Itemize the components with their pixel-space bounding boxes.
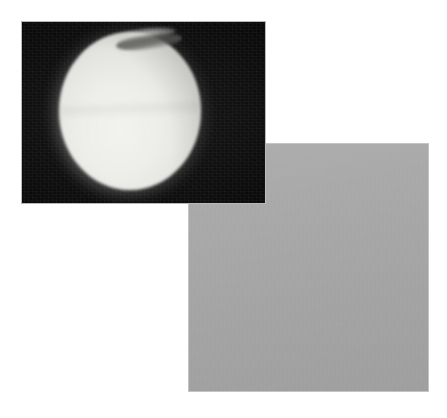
full-disk-image bbox=[22, 22, 265, 203]
panel-full-disk: Full illuminated disk of a hazy moon aga… bbox=[21, 21, 266, 204]
limb-darkening bbox=[59, 32, 201, 190]
figure-container: High resolution close-up of the curved l… bbox=[0, 0, 447, 418]
figure-caption bbox=[0, 0, 1, 1]
